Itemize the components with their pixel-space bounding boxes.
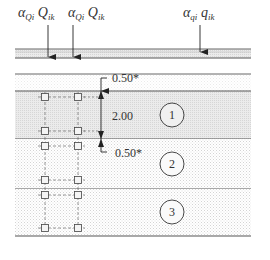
node: [75, 177, 82, 184]
layer-1-number: 1: [169, 108, 175, 123]
layer-2-number: 2: [169, 157, 175, 172]
node: [42, 128, 49, 135]
node: [42, 143, 49, 150]
node: [42, 225, 49, 232]
surface-slab: [15, 49, 251, 58]
distributed-load-label: αqi qik: [183, 5, 214, 25]
diagram-canvas: [0, 0, 270, 260]
node: [75, 225, 82, 232]
node: [42, 94, 49, 101]
layer-3-number: 3: [169, 205, 175, 220]
dimension-bottom-offset: 0.50*: [115, 146, 142, 160]
node: [42, 177, 49, 184]
point-load-1-label: αQi Qik: [18, 5, 54, 25]
node: [75, 192, 82, 199]
node: [75, 143, 82, 150]
layer-1-fill: [15, 91, 251, 139]
point-load-2-label: αQi Qik: [68, 5, 104, 25]
node: [75, 128, 82, 135]
dimension-layer-height: 2.00: [112, 109, 133, 123]
node: [42, 192, 49, 199]
dimension-top-offset: 0.50*: [112, 71, 139, 85]
node: [75, 94, 82, 101]
layer-3-fill: [15, 189, 251, 236]
